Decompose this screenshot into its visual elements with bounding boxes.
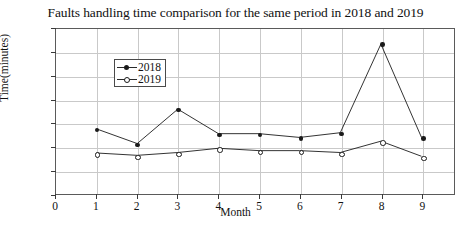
x-tick-mark — [218, 194, 219, 199]
y-tick-mark — [51, 52, 56, 53]
data-point — [217, 133, 222, 138]
series-lines — [56, 29, 454, 194]
x-tick-mark — [96, 194, 97, 199]
legend-label-2018: 2018 — [138, 61, 161, 73]
y-tick-mark — [51, 123, 56, 124]
data-point — [95, 152, 101, 158]
y-tick-mark — [51, 171, 56, 172]
data-point — [380, 42, 385, 47]
x-tick-mark — [55, 194, 56, 199]
data-point — [380, 140, 386, 146]
y-tick-mark — [51, 76, 56, 77]
legend-marker-2018-icon — [117, 62, 137, 72]
data-point — [217, 147, 223, 153]
x-tick-mark — [382, 194, 383, 199]
data-point — [421, 156, 427, 162]
x-tick-mark — [422, 194, 423, 199]
legend-item-2019: 2019 — [117, 73, 161, 85]
data-point — [135, 155, 141, 161]
x-tick-mark — [137, 194, 138, 199]
x-tick-mark — [300, 194, 301, 199]
data-point — [176, 108, 181, 113]
data-point — [176, 152, 182, 158]
x-axis-label: Month — [0, 206, 471, 218]
faults-handling-time-chart: Faults handling time comparison for the … — [0, 0, 471, 226]
x-tick-mark — [341, 194, 342, 199]
chart-title: Faults handling time comparison for the … — [0, 5, 471, 21]
data-point — [339, 132, 344, 137]
y-tick-mark — [51, 147, 56, 148]
y-axis-label: Time(minutes) — [0, 34, 10, 102]
data-point — [135, 143, 140, 148]
legend-label-2019: 2019 — [138, 73, 161, 85]
data-point — [421, 136, 426, 141]
data-point — [299, 136, 304, 141]
legend: 2018 2019 — [114, 59, 166, 87]
plot-area: 2018 2019 — [55, 28, 455, 195]
legend-item-2018: 2018 — [117, 61, 161, 73]
x-tick-mark — [259, 194, 260, 199]
y-tick-mark — [51, 100, 56, 101]
x-tick-mark — [177, 194, 178, 199]
legend-marker-2019-icon — [117, 74, 137, 84]
y-tick-mark — [51, 28, 56, 29]
